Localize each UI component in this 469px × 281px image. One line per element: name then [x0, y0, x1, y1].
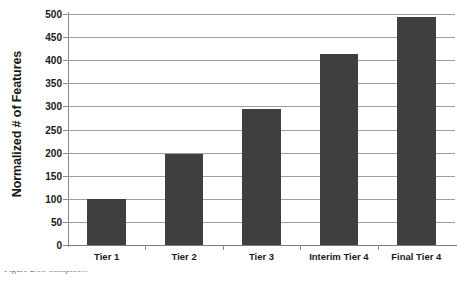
- y-axis-tick: [63, 245, 68, 246]
- y-axis-tick: [63, 153, 68, 154]
- bar: [165, 154, 204, 245]
- x-axis-tick-label: Tier 3: [249, 251, 274, 262]
- x-axis-tick: [223, 245, 224, 250]
- y-axis-tick: [63, 60, 68, 61]
- bar: [242, 109, 281, 245]
- y-axis-tick-label: 500: [28, 9, 62, 20]
- figure-caption-text: Figure 2.13 Complex...: [4, 271, 304, 274]
- y-axis-tick: [63, 130, 68, 131]
- x-axis-tick-label: Final Tier 4: [391, 251, 441, 262]
- y-axis-tick: [63, 83, 68, 84]
- y-axis-tick-label: 50: [28, 216, 62, 227]
- gridline: [68, 245, 455, 246]
- y-axis-tick-label: 300: [28, 101, 62, 112]
- x-axis-tick: [378, 245, 379, 250]
- bar: [87, 199, 126, 245]
- x-axis-tick-label: Tier 1: [94, 251, 119, 262]
- y-axis-tick-label: 350: [28, 78, 62, 89]
- y-axis-tick-label: 100: [28, 193, 62, 204]
- x-axis-tick: [300, 245, 301, 250]
- x-axis-tick-label: Tier 2: [172, 251, 197, 262]
- y-axis-tick: [63, 106, 68, 107]
- y-axis-tick: [63, 222, 68, 223]
- y-axis-tick-label: 250: [28, 124, 62, 135]
- bar-series: [68, 14, 455, 245]
- y-axis-tick-label: 200: [28, 147, 62, 158]
- y-axis-tick: [63, 37, 68, 38]
- y-axis-tick-label: 150: [28, 170, 62, 181]
- x-axis-tick: [145, 245, 146, 250]
- y-axis-tick-labels: 050100150200250300350400450500: [20, 0, 62, 281]
- y-axis-tick-label: 0: [28, 240, 62, 251]
- chart-page: Normalized # of Features 050100150200250…: [0, 0, 469, 281]
- bar: [397, 17, 436, 245]
- x-axis-tick-label: Interim Tier 4: [309, 251, 369, 262]
- y-axis-tick: [63, 199, 68, 200]
- figure-caption: Figure 2.13 Complex...: [4, 271, 304, 281]
- bar: [320, 54, 359, 245]
- y-axis-tick-label: 400: [28, 55, 62, 66]
- y-axis-tick: [63, 176, 68, 177]
- y-axis-tick: [63, 14, 68, 15]
- y-axis-tick-label: 450: [28, 32, 62, 43]
